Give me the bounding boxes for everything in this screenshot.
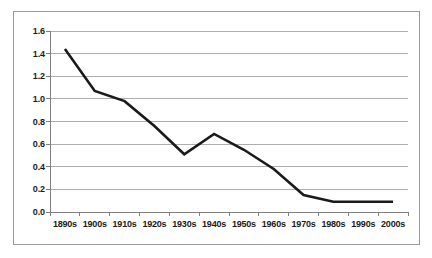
x-axis-tick-label: 1910s [113, 219, 137, 229]
y-axis-tick-label: 0.4 [33, 162, 45, 172]
y-axis-tick-label: 0.2 [33, 184, 45, 194]
y-axis-tick-label: 1.4 [33, 49, 45, 59]
x-axis-tick-label: 1990s [351, 219, 375, 229]
y-axis-tick-label: 0.0 [33, 207, 45, 217]
y-axis-tick-label: 0.8 [33, 117, 45, 127]
y-axis-tick-marks [46, 31, 50, 212]
plot-area: 0.00.20.40.60.81.01.21.41.6 1890s1900s19… [14, 12, 419, 244]
x-axis-tick-label: 1940s [202, 219, 226, 229]
y-axis-tick-label: 1.2 [33, 71, 45, 81]
x-axis-tick-labels: 1890s1900s1910s1920s1930s1940s1950s1960s… [14, 219, 419, 235]
x-axis-tick-label: 1950s [232, 219, 256, 229]
x-axis-tick-label: 1960s [262, 219, 286, 229]
x-axis-tick-label: 1900s [83, 219, 107, 229]
y-axis-tick-label: 1.0 [33, 94, 45, 104]
y-axis-tick-label: 0.6 [33, 139, 45, 149]
data-series-line [65, 49, 393, 202]
x-axis-tick-label: 1980s [321, 219, 345, 229]
x-axis-tick-label: 2000s [381, 219, 405, 229]
gridlines [50, 31, 408, 212]
x-axis-tick-label: 1890s [53, 219, 77, 229]
x-axis-tick-marks [50, 212, 408, 216]
x-axis-tick-label: 1970s [292, 219, 316, 229]
chart-figure: 0.00.20.40.60.81.01.21.41.6 1890s1900s19… [13, 11, 420, 245]
y-axis-tick-label: 1.6 [33, 26, 45, 36]
x-axis-tick-label: 1920s [142, 219, 166, 229]
line-chart-canvas [14, 12, 419, 244]
y-axis-tick-labels: 0.00.20.40.60.81.01.21.41.6 [14, 12, 45, 244]
x-axis-tick-label: 1930s [172, 219, 196, 229]
series-line [65, 49, 393, 202]
